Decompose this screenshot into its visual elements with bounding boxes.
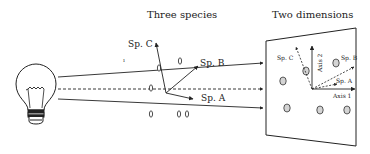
title-three-species: Three species	[147, 9, 217, 20]
label-sp-b: Sp. B	[200, 58, 225, 68]
title-two-dimensions: Two dimensions	[272, 9, 353, 20]
pca-projection-diagram: Three species Two dimensions ı Sp. C Sp.…	[0, 0, 370, 154]
projected-label-sp-a: Sp. A	[336, 77, 353, 85]
light-bulb-icon	[16, 64, 56, 124]
projected-label-sp-c: Sp. C	[277, 54, 294, 62]
axis-2-label: Axis 2	[316, 53, 323, 73]
sample-points	[149, 58, 188, 117]
species-vectors	[156, 43, 198, 99]
projected-label-sp-b: Sp. B	[341, 54, 358, 62]
label-sp-a: Sp. A	[201, 93, 226, 103]
label-sp-c: Sp. C	[128, 39, 153, 49]
axis-1-label: Axis 1	[332, 92, 351, 99]
tick-mark: ı	[123, 56, 125, 63]
projection-plane	[266, 28, 356, 146]
vector-sp-a	[166, 93, 193, 99]
